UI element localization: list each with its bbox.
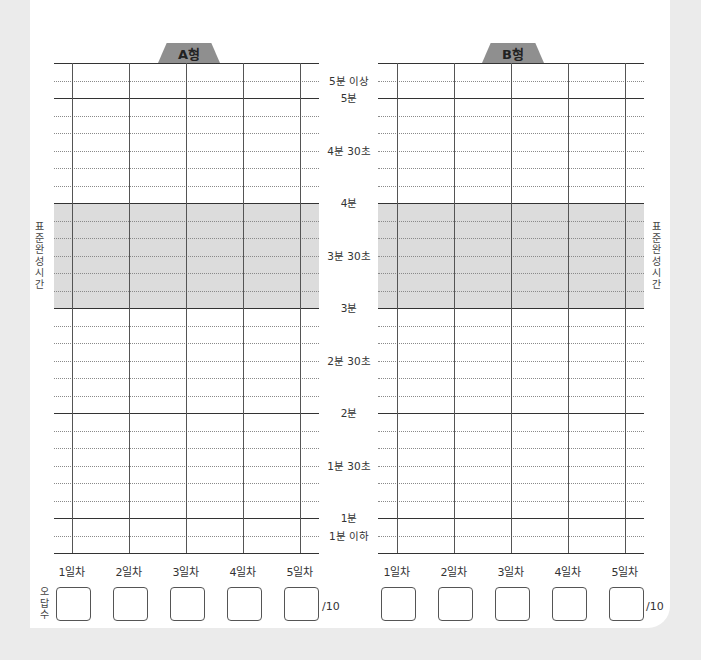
wrong-answers-label: 오답수 xyxy=(38,586,50,621)
day-label: 1일차 xyxy=(47,563,97,579)
standard-time-char: 표 xyxy=(650,221,662,233)
standard-time-char: 완 xyxy=(650,244,662,256)
day-label: 5일차 xyxy=(600,563,650,579)
standard-time-char: 완 xyxy=(33,244,45,256)
standard-time-label-right: 표준완성시간 xyxy=(650,221,662,290)
day-column-line xyxy=(186,63,187,553)
y-axis-label: 2분 xyxy=(309,407,389,419)
chart-b-title: B형 xyxy=(502,44,524,63)
y-axis-label: 3분 xyxy=(309,302,389,314)
chart-a-tab: A형 xyxy=(158,43,220,63)
wrong-answer-input-box[interactable] xyxy=(227,587,262,621)
y-axis-label: 4분 xyxy=(309,197,389,209)
wrong-answers-char: 오 xyxy=(38,586,50,598)
wrong-answers-char: 수 xyxy=(38,609,50,621)
day-label: 3일차 xyxy=(486,563,536,579)
grid-line-major xyxy=(378,553,644,554)
day-column-line xyxy=(72,63,73,553)
chart-b-tab: B형 xyxy=(482,43,544,63)
wrong-answer-input-box[interactable] xyxy=(609,587,644,621)
day-column-line xyxy=(454,63,455,553)
y-axis-label: 3분 30초 xyxy=(309,250,389,262)
wrong-answer-input-box[interactable] xyxy=(170,587,205,621)
day-column-line xyxy=(511,63,512,553)
wrong-answer-input-box[interactable] xyxy=(552,587,587,621)
standard-time-char: 간 xyxy=(650,279,662,291)
day-column-line xyxy=(243,63,244,553)
standard-time-char: 간 xyxy=(33,279,45,291)
day-column-line xyxy=(625,63,626,553)
y-axis-label: 5분 xyxy=(309,92,389,104)
chart-b-denominator: /10 xyxy=(646,600,664,613)
wrong-answers-char: 답 xyxy=(38,598,50,610)
day-label: 5일차 xyxy=(275,563,325,579)
wrong-answer-input-box[interactable] xyxy=(438,587,473,621)
wrong-answer-input-box[interactable] xyxy=(284,587,319,621)
day-column-line xyxy=(397,63,398,553)
day-label: 4일차 xyxy=(543,563,593,579)
chart-a-denominator: /10 xyxy=(322,600,340,613)
grid-line-major xyxy=(54,553,319,554)
day-label: 4일차 xyxy=(218,563,268,579)
wrong-answer-input-box[interactable] xyxy=(495,587,530,621)
y-axis-label: 5분 이상 xyxy=(309,75,389,87)
standard-time-char: 성 xyxy=(650,256,662,268)
y-axis-label: 1분 30초 xyxy=(309,460,389,472)
standard-time-char: 준 xyxy=(33,233,45,245)
y-axis-label: 1분 xyxy=(309,512,389,524)
day-label: 1일차 xyxy=(372,563,422,579)
day-column-line xyxy=(568,63,569,553)
chart-a-title: A형 xyxy=(178,44,200,63)
day-label: 2일차 xyxy=(429,563,479,579)
day-label: 3일차 xyxy=(161,563,211,579)
y-axis-label: 2분 30초 xyxy=(309,355,389,367)
standard-time-char: 성 xyxy=(33,256,45,268)
standard-time-char: 시 xyxy=(33,267,45,279)
standard-time-char: 준 xyxy=(650,233,662,245)
y-axis-label: 4분 30초 xyxy=(309,145,389,157)
standard-time-char: 시 xyxy=(650,267,662,279)
day-label: 2일차 xyxy=(104,563,154,579)
wrong-answer-input-box[interactable] xyxy=(113,587,148,621)
wrong-answer-input-box[interactable] xyxy=(56,587,91,621)
y-axis-label: 1분 이하 xyxy=(309,530,389,542)
day-column-line xyxy=(300,63,301,553)
day-column-line xyxy=(129,63,130,553)
wrong-answer-input-box[interactable] xyxy=(381,587,416,621)
standard-time-char: 표 xyxy=(33,221,45,233)
standard-time-label-left: 표준완성시간 xyxy=(33,221,45,290)
